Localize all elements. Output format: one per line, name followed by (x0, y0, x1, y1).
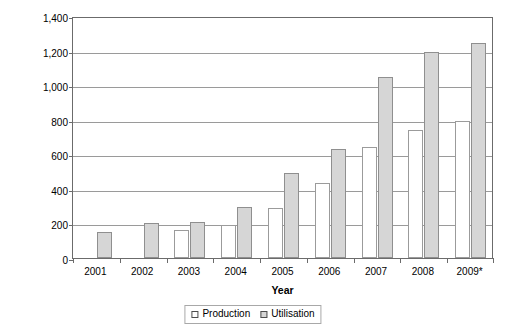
x-tick-mark (307, 258, 308, 263)
x-tick-mark (447, 258, 448, 263)
x-tick-label: 2009* (457, 266, 483, 277)
legend-label: Utilisation (271, 308, 314, 320)
x-tick-label: 2007 (365, 266, 387, 277)
x-tick-label: 2003 (178, 266, 200, 277)
y-tick-label: 1,000 (43, 82, 68, 93)
legend-item-production[interactable]: Production (191, 308, 250, 320)
plot-area: 02004006008001,0001,2001,400 (72, 17, 493, 259)
x-tick-mark (167, 258, 168, 263)
x-tick-mark (493, 258, 494, 263)
x-tick-mark (73, 258, 74, 263)
bar-chart: [1,000 t (w.b.)/a] 02004006008001,0001,2… (0, 0, 506, 336)
x-tick-label: 2002 (131, 266, 153, 277)
y-tick-label: 1,400 (43, 13, 68, 24)
y-tick-label: 600 (51, 151, 68, 162)
y-tick-label: 1,200 (43, 47, 68, 58)
chart-legend: ProductionUtilisation (184, 305, 321, 324)
legend-item-utilisation[interactable]: Utilisation (260, 308, 314, 320)
legend-label: Production (202, 308, 250, 320)
x-axis-ticks (73, 18, 492, 258)
y-tick-label: 0 (62, 255, 68, 266)
legend-swatch-production (191, 311, 198, 318)
x-tick-mark (213, 258, 214, 263)
x-tick-label: 2005 (271, 266, 293, 277)
x-tick-mark (120, 258, 121, 263)
x-axis-title: Year (72, 284, 493, 296)
y-tick-label: 400 (51, 185, 68, 196)
x-tick-label: 2008 (412, 266, 434, 277)
y-tick-label: 800 (51, 116, 68, 127)
legend-swatch-utilisation (260, 311, 267, 318)
x-tick-mark (260, 258, 261, 263)
x-tick-mark (400, 258, 401, 263)
x-tick-mark (354, 258, 355, 263)
x-tick-label: 2001 (84, 266, 106, 277)
x-tick-label: 2004 (225, 266, 247, 277)
y-tick-label: 200 (51, 220, 68, 231)
x-tick-label: 2006 (318, 266, 340, 277)
